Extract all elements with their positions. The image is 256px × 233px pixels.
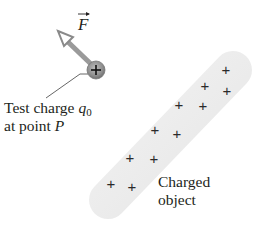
plus-charge-icon: + [175, 96, 184, 113]
plus-charge-icon: + [128, 178, 137, 195]
charged-object-label-line2: object [158, 191, 197, 208]
charge-subscript: 0 [86, 106, 92, 118]
test-charge-label-text: Test charge [4, 99, 78, 116]
leader-line [46, 74, 88, 98]
field-diagram: +++++++++++ F Test charge q0 at point P … [0, 0, 256, 233]
force-symbol: F [77, 15, 89, 34]
point-symbol: P [54, 117, 65, 134]
plus-charge-icon: + [150, 150, 159, 167]
force-arrow-shaft [68, 42, 92, 65]
point-label-text: at point [4, 117, 55, 134]
plus-charge-icon: + [107, 175, 116, 192]
force-label: F [77, 12, 90, 34]
plus-charge-icon: + [201, 77, 210, 94]
force-vector-arrow [58, 31, 92, 65]
test-charge-label-line1: Test charge q0 [4, 99, 92, 118]
plus-charge-icon: + [222, 61, 231, 78]
plus-charge-icon: + [223, 82, 232, 99]
charged-object-label-line1: Charged [158, 173, 210, 190]
test-charge [87, 61, 105, 79]
plus-charge-icon: + [173, 125, 182, 142]
test-charge-label-line2: at point P [4, 117, 65, 134]
plus-charge-icon: + [151, 121, 160, 138]
plus-charge-icon: + [126, 149, 135, 166]
plus-charge-icon: + [199, 97, 208, 114]
